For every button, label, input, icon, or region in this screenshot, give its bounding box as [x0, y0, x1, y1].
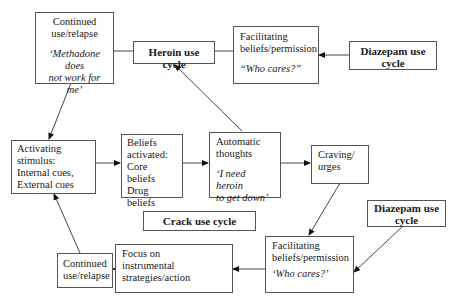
- node-label: External cues: [17, 179, 90, 191]
- edge-relapse-activating-bottom: [54, 194, 80, 253]
- node-quote: ‘Methadone does: [41, 48, 108, 72]
- edge-diazepam-facilitating-bottom: [354, 226, 403, 272]
- node-craving-urges: Craving/ urges: [311, 145, 369, 184]
- node-label: Continued: [63, 258, 107, 270]
- node-continued-use-relapse-bottom: Continued use/relapse: [57, 253, 113, 288]
- node-label: Facilitating: [272, 240, 347, 252]
- node-label: cycle: [370, 214, 443, 226]
- node-activating-stimulus: Activating stimulus: Internal cues, Exte…: [11, 140, 96, 194]
- node-label: instrumental: [122, 260, 226, 272]
- node-label: Diazepam use: [370, 202, 443, 214]
- node-continued-use-relapse-top: Continued use/relapse ‘Methadone does no…: [35, 12, 114, 84]
- node-facilitating-beliefs-bottom: Facilitating beliefs/permission ‘Who car…: [265, 236, 354, 293]
- node-label: urges: [318, 161, 362, 173]
- node-diazepam-use-cycle-top: Diazepam use cycle: [349, 41, 437, 70]
- node-focus-instrumental-strategies: Focus on instrumental strategies/action: [115, 244, 233, 293]
- node-label: beliefs/permission: [240, 43, 312, 55]
- node-label: Drug beliefs: [127, 185, 177, 209]
- node-heroin-use-cycle: Heroin use cycle: [133, 41, 215, 64]
- node-quote: ‘I need heroin: [216, 168, 274, 192]
- node-diazepam-use-cycle-bottom: Diazepam use cycle: [367, 200, 446, 227]
- node-crack-use-cycle: Crack use cycle: [143, 211, 256, 231]
- node-label: activated:: [127, 149, 177, 161]
- node-label: Focus on: [122, 248, 226, 260]
- node-label: use/relapse: [41, 28, 108, 40]
- node-facilitating-beliefs-top: Facilitating beliefs/permission “Who car…: [233, 26, 319, 84]
- node-label: Beliefs: [127, 137, 177, 149]
- node-label: cycle: [352, 57, 434, 69]
- node-quote: “Who cares?”: [240, 63, 312, 75]
- node-label: Facilitating: [240, 31, 312, 43]
- node-label: Crack use cycle: [163, 215, 236, 227]
- node-quote: ‘Who cares?’: [272, 268, 347, 280]
- node-label: stimulus:: [17, 155, 90, 167]
- node-label: Activating: [17, 143, 90, 155]
- node-label: use/relapse: [63, 270, 107, 282]
- node-label: strategies/action: [122, 272, 226, 284]
- node-beliefs-activated: Beliefs activated: Core beliefs Drug bel…: [121, 134, 183, 198]
- node-label: Automatic: [216, 136, 274, 148]
- node-label: thoughts: [216, 148, 274, 160]
- node-label: Craving/: [318, 149, 362, 161]
- node-label: beliefs/permission: [272, 252, 347, 264]
- node-label: Core beliefs: [127, 161, 177, 185]
- node-automatic-thoughts: Automatic thoughts ‘I need heroin to get…: [209, 132, 281, 198]
- node-label: Continued: [41, 16, 108, 28]
- edge-craving-facilitating: [309, 183, 340, 235]
- edge-automatic-heroin: [175, 65, 242, 131]
- node-quote: to get down’: [216, 192, 274, 204]
- node-label: Internal cues,: [17, 167, 90, 179]
- node-quote: not work for me’: [41, 72, 108, 96]
- node-label: Diazepam use: [352, 45, 434, 57]
